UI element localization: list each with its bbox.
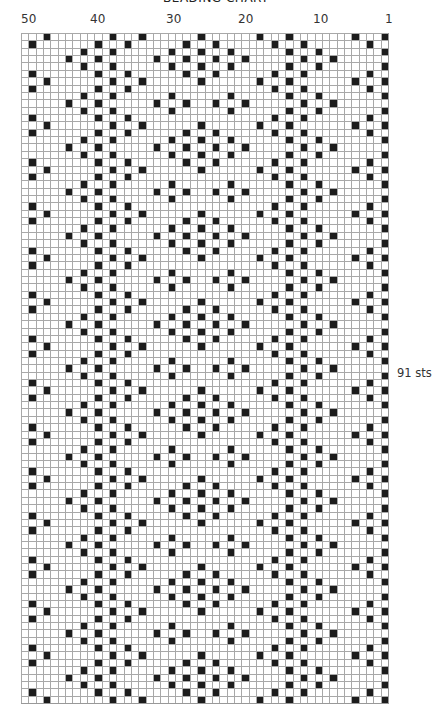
bead-cell-filled (271, 173, 278, 180)
bead-cell-empty (351, 224, 358, 231)
bead-cell-empty (146, 416, 153, 423)
bead-cell-empty (263, 224, 270, 231)
bead-cell-empty (87, 666, 94, 673)
bead-cell-empty (381, 247, 388, 254)
bead-cell-empty (315, 298, 322, 305)
bead-cell-empty (102, 62, 109, 69)
bead-cell-empty (168, 467, 175, 474)
bead-cell-empty (322, 497, 329, 504)
bead-cell-empty (322, 563, 329, 570)
bead-cell-empty (138, 129, 145, 136)
bead-cell-empty (373, 585, 380, 592)
bead-cell-empty (205, 195, 212, 202)
bead-cell-empty (256, 70, 263, 77)
bead-cell-empty (359, 254, 366, 261)
bead-cell-empty (116, 489, 123, 496)
bead-cell-empty (72, 372, 79, 379)
bead-cell-empty (102, 453, 109, 460)
bead-cell-empty (300, 578, 307, 585)
bead-cell-empty (109, 453, 116, 460)
bead-cell-empty (285, 70, 292, 77)
bead-cell-empty (116, 143, 123, 150)
bead-cell-empty (293, 541, 300, 548)
bead-cell-empty (271, 519, 278, 526)
bead-cell-filled (285, 136, 292, 143)
bead-cell-empty (182, 637, 189, 644)
bead-cell-filled (109, 534, 116, 541)
bead-cell-empty (227, 335, 234, 342)
bead-cell-empty (50, 512, 57, 519)
bead-cell-filled (315, 48, 322, 55)
bead-cell-empty (359, 423, 366, 430)
bead-cell-empty (28, 210, 35, 217)
bead-cell-empty (65, 593, 72, 600)
bead-cell-empty (241, 666, 248, 673)
bead-cell-empty (337, 696, 344, 703)
bead-cell-empty (249, 232, 256, 239)
bead-cell-empty (58, 379, 65, 386)
bead-cell-empty (87, 445, 94, 452)
bead-cell-empty (329, 467, 336, 474)
bead-cell-empty (124, 401, 131, 408)
bead-cell-empty (43, 48, 50, 55)
bead-cell-filled (168, 224, 175, 231)
bead-cell-filled (241, 585, 248, 592)
bead-cell-empty (234, 372, 241, 379)
bead-cell-empty (307, 210, 314, 217)
bead-cell-empty (102, 357, 109, 364)
bead-cell-empty (293, 247, 300, 254)
bead-cell-empty (219, 637, 226, 644)
bead-cell-empty (359, 453, 366, 460)
bead-cell-empty (249, 593, 256, 600)
bead-cell-empty (87, 600, 94, 607)
bead-cell-empty (351, 129, 358, 136)
bead-cell-empty (72, 350, 79, 357)
bead-cell-empty (116, 342, 123, 349)
bead-cell-empty (153, 70, 160, 77)
bead-cell-empty (300, 313, 307, 320)
bead-cell-empty (278, 482, 285, 489)
bead-cell-empty (344, 519, 351, 526)
bead-cell-filled (366, 659, 373, 666)
bead-cell-empty (285, 438, 292, 445)
bead-cell-filled (109, 637, 116, 644)
bead-cell-filled (124, 467, 131, 474)
bead-cell-empty (366, 283, 373, 290)
bead-cell-filled (285, 372, 292, 379)
bead-cell-empty (307, 482, 314, 489)
bead-cell-empty (307, 217, 314, 224)
bead-cell-empty (219, 556, 226, 563)
bead-cell-empty (241, 210, 248, 217)
bead-cell-empty (175, 261, 182, 268)
bead-cell-empty (278, 239, 285, 246)
bead-cell-empty (351, 158, 358, 165)
bead-cell-empty (212, 607, 219, 614)
bead-cell-empty (131, 33, 138, 40)
bead-cell-empty (227, 158, 234, 165)
bead-cell-empty (234, 445, 241, 452)
bead-cell-filled (212, 217, 219, 224)
bead-cell-empty (241, 615, 248, 622)
bead-cell-filled (227, 622, 234, 629)
bead-cell-empty (366, 497, 373, 504)
bead-cell-empty (50, 129, 57, 136)
bead-cell-empty (351, 578, 358, 585)
bead-cell-empty (205, 423, 212, 430)
bead-cell-empty (285, 482, 292, 489)
bead-cell-empty (227, 379, 234, 386)
bead-cell-filled (168, 195, 175, 202)
bead-cell-empty (131, 70, 138, 77)
bead-cell-filled (381, 416, 388, 423)
bead-cell-empty (190, 114, 197, 121)
bead-cell-empty (131, 696, 138, 703)
bead-cell-empty (373, 563, 380, 570)
bead-cell-empty (249, 570, 256, 577)
bead-cell-empty (65, 482, 72, 489)
bead-cell-empty (138, 489, 145, 496)
bead-cell-empty (249, 519, 256, 526)
bead-cell-empty (153, 195, 160, 202)
bead-cell-empty (65, 622, 72, 629)
bead-cell-empty (219, 534, 226, 541)
bead-cell-empty (72, 622, 79, 629)
bead-cell-empty (337, 48, 344, 55)
